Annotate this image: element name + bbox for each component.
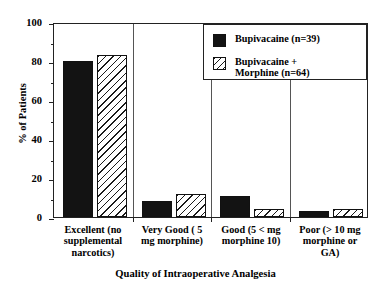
bar-bupivacaine-morphine-poor <box>333 209 363 217</box>
legend-label: Bupivacaine (n=39) <box>235 33 320 44</box>
legend-swatch-hatch-icon <box>213 57 226 70</box>
legend-swatch-solid-icon <box>213 34 226 47</box>
y-major-tick <box>49 24 54 25</box>
y-minor-tick <box>51 161 54 162</box>
bar-bupivacaine-morphine-good <box>254 209 284 217</box>
x-category-label-good: Good (5 < mg morphine 10) <box>209 224 293 247</box>
y-tick-label: 60 <box>16 96 42 107</box>
y-tick-label: 40 <box>16 135 42 146</box>
x-category-label-excellent: Excellent (no supplemental narcotics) <box>50 224 136 258</box>
y-major-tick <box>49 180 54 181</box>
y-major-tick <box>49 219 54 220</box>
bar-bupivacaine-excellent <box>63 61 93 217</box>
bar-bupivacaine-very-good <box>142 201 172 217</box>
y-tick-label: 80 <box>16 57 42 68</box>
legend-item-bupivacaine-morphine: Bupivacaine + Morphine (n=64) <box>213 56 310 78</box>
bar-bupivacaine-good <box>220 196 250 218</box>
y-major-tick <box>49 102 54 103</box>
y-axis-tick-labels: 100 80 60 40 20 0 <box>12 0 42 295</box>
y-minor-tick <box>51 200 54 201</box>
x-axis-tick <box>211 217 212 222</box>
x-category-label-poor: Poor (> 10 mg morphine or GA) <box>288 224 372 258</box>
y-minor-tick <box>51 122 54 123</box>
chart-legend: Bupivacaine (n=39) Bupivacaine + Morphin… <box>203 24 367 80</box>
chart-figure: % of Patients 100 80 60 40 20 0 <box>0 0 391 295</box>
x-axis-title: Quality of Intraoperative Analgesia <box>0 268 391 279</box>
bar-bupivacaine-morphine-very-good <box>176 194 206 217</box>
y-minor-tick <box>51 83 54 84</box>
y-major-tick <box>49 63 54 64</box>
y-minor-tick <box>51 44 54 45</box>
y-major-tick <box>49 141 54 142</box>
legend-item-bupivacaine: Bupivacaine (n=39) <box>213 33 320 47</box>
x-axis-tick <box>290 217 291 222</box>
x-category-label-very-good: Very Good ( 5 mg morphine) <box>130 224 214 247</box>
x-axis-tick <box>133 217 134 222</box>
y-tick-label: 100 <box>16 18 42 29</box>
legend-label: Bupivacaine + Morphine (n=64) <box>235 56 310 78</box>
group-separator <box>133 24 134 217</box>
bar-bupivacaine-morphine-excellent <box>97 55 127 217</box>
bar-bupivacaine-poor <box>299 211 329 217</box>
y-tick-label: 0 <box>16 213 42 224</box>
y-tick-label: 20 <box>16 174 42 185</box>
